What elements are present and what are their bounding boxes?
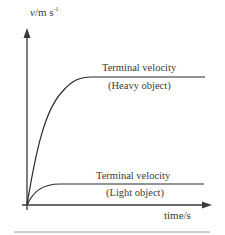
x-axis-arrow-icon: [202, 202, 212, 209]
light-annotation-bottom: (Light object): [106, 187, 164, 198]
heavy-annotation-top: Terminal velocity: [102, 62, 176, 73]
heavy-annotation-bottom: (Heavy object): [108, 80, 171, 91]
x-axis-label: time/s: [164, 209, 191, 221]
chart-plot: [0, 0, 225, 235]
y-axis-arrow-icon: [24, 28, 31, 38]
y-axis-label: v/m s-1: [30, 6, 59, 18]
bottom-divider: [14, 231, 210, 233]
light-annotation-top: Terminal velocity: [96, 170, 170, 181]
heavy-object-curve: [27, 77, 205, 205]
